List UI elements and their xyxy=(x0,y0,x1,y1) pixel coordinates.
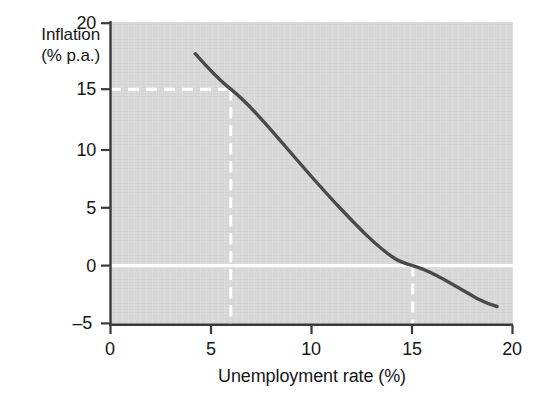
x-tick-label-0: 0 xyxy=(90,340,130,358)
y-tick-label-10: 10 xyxy=(56,141,96,159)
x-axis-ticks xyxy=(111,325,513,334)
y-axis-ticks xyxy=(101,23,110,323)
y-tick-label-0: 0 xyxy=(56,257,96,275)
x-tick-label-15: 15 xyxy=(392,340,432,358)
x-tick-label-10: 10 xyxy=(291,340,331,358)
plot-area-background xyxy=(110,22,513,325)
y-axis-title-line2: (% p.a.) xyxy=(4,45,100,66)
x-tick-label-20: 20 xyxy=(492,340,532,358)
x-axis-title: Unemployment rate (%) xyxy=(218,366,406,386)
y-tick-label-minus5: –5 xyxy=(52,314,92,332)
y-tick-label-5: 5 xyxy=(56,199,96,217)
y-tick-label-15: 15 xyxy=(56,80,96,98)
y-tick-label-20: 20 xyxy=(56,14,96,32)
x-tick-label-5: 5 xyxy=(191,340,231,358)
phillips-curve-figure: Inflation (% p.a.) 20 15 10 5 0 –5 0 5 1… xyxy=(0,0,538,399)
